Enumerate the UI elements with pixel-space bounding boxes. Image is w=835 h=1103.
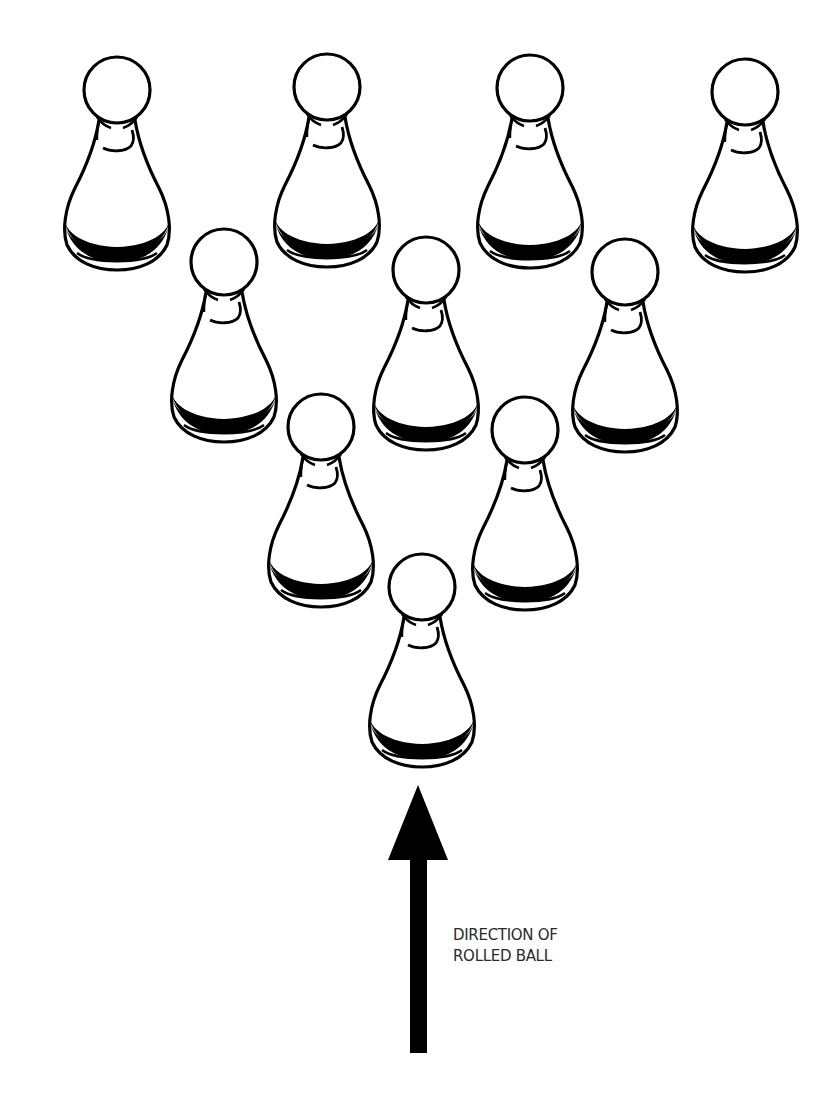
- bowling-pin-3: [477, 55, 583, 268]
- bowling-pin-1: [64, 57, 170, 270]
- bowling-pin-2: [274, 54, 380, 267]
- bowling-pin-8: [268, 394, 374, 607]
- bowling-pin-9: [472, 397, 578, 610]
- direction-label-line-1: DIRECTION OF: [453, 925, 558, 946]
- bowling-pin-5: [171, 229, 277, 442]
- direction-label: DIRECTION OF ROLLED BALL: [453, 925, 558, 967]
- direction-arrow-icon: [388, 785, 448, 1053]
- bowling-pin-4: [692, 59, 798, 272]
- arrow-shaft: [410, 858, 427, 1053]
- bowling-pin-10: [369, 554, 475, 767]
- arrow-head: [388, 785, 448, 860]
- pin-group: [64, 54, 798, 767]
- direction-label-line-2: ROLLED BALL: [453, 946, 558, 967]
- bowling-pin-6: [373, 237, 479, 450]
- bowling-pins-diagram: [0, 0, 835, 1103]
- bowling-pin-7: [572, 239, 678, 452]
